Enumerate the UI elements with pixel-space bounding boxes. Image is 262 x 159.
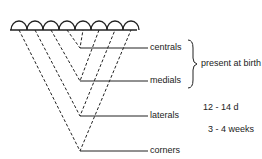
label-centrals: centrals [150, 43, 182, 52]
label-corners-eruption: 3 - 4 weeks [208, 125, 254, 134]
label-laterals: laterals [150, 111, 179, 120]
label-laterals-eruption: 12 - 14 d [203, 103, 239, 112]
label-medials: medials [150, 76, 181, 85]
leader-lines [80, 40, 197, 151]
incisor-row [10, 21, 139, 30]
incisor-eruption-diagram [0, 0, 262, 159]
brace [188, 40, 197, 88]
label-present-at-birth: present at birth [201, 59, 261, 68]
label-corners: corners [150, 146, 180, 155]
